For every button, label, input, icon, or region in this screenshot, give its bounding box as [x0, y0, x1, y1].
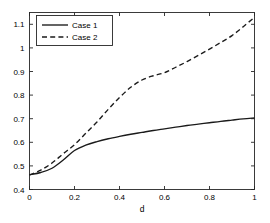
y-tick-label: 1 — [20, 44, 25, 53]
x-tick-label: 0.4 — [114, 193, 126, 202]
x-tick-label: 0.2 — [69, 193, 81, 202]
y-tick-label: 0.6 — [13, 138, 25, 147]
figure-canvas: 00.20.40.60.81 0.40.50.60.70.80.911.1 Ca… — [0, 0, 270, 223]
legend-label-case-2: Case 2 — [72, 33, 98, 42]
x-tick-label: 0.8 — [204, 193, 216, 202]
y-tick-label: 0.8 — [13, 91, 25, 100]
x-axis-tick-labels: 00.20.40.60.81 — [27, 193, 257, 202]
y-tick-label: 0.5 — [13, 162, 25, 171]
y-tick-label: 0.7 — [13, 115, 25, 124]
x-tick-label: 1 — [252, 193, 257, 202]
x-axis-title: d — [140, 204, 145, 214]
y-tick-label: 0.9 — [13, 68, 25, 77]
y-tick-label: 0.4 — [13, 186, 25, 195]
y-tick-label: 1.1 — [13, 20, 25, 29]
y-axis-tick-labels: 0.40.50.60.70.80.911.1 — [13, 20, 25, 194]
x-tick-label: 0.6 — [159, 193, 171, 202]
line-chart: 00.20.40.60.81 0.40.50.60.70.80.911.1 Ca… — [0, 0, 270, 223]
legend[interactable]: Case 1 Case 2 — [37, 16, 113, 46]
series-line-case-1 — [30, 118, 255, 175]
legend-label-case-1: Case 1 — [72, 21, 98, 30]
x-tick-label: 0 — [27, 193, 32, 202]
